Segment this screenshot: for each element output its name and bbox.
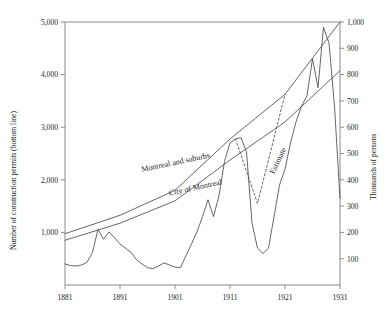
right-tick-label: 200 [347, 228, 359, 237]
right-tick-label: 800 [347, 70, 359, 79]
chart-figure: 1,0002,0003,0004,0005,000 10020030040050… [0, 0, 387, 321]
left-tick-label: 5,000 [41, 18, 58, 27]
right-tick-label: 900 [347, 44, 359, 53]
left-tick-label: 2,000 [41, 176, 58, 185]
right-tick-label: 1,000 [347, 18, 364, 27]
bottom-tick-label: 1931 [332, 293, 347, 302]
right-tick-label: 500 [347, 149, 359, 158]
bottom-tick-label: 1891 [112, 293, 127, 302]
right-axis-title: Thousands of persons [369, 134, 378, 200]
right-tick-label: 400 [347, 176, 359, 185]
left-axis-title: Number of construction permits (bottom l… [9, 111, 18, 250]
right-tick-label: 300 [347, 202, 359, 211]
bottom-tick-label: 1921 [277, 293, 292, 302]
left-tick-label: 4,000 [41, 70, 58, 79]
bottom-tick-label: 1911 [223, 293, 238, 302]
right-tick-label: 600 [347, 123, 359, 132]
right-tick-label: 700 [347, 97, 359, 106]
left-tick-label: 1,000 [41, 228, 58, 237]
line-chart: 1,0002,0003,0004,0005,000 10020030040050… [0, 0, 387, 321]
bottom-tick-label: 1901 [167, 293, 182, 302]
bottom-tick-label: 1881 [57, 293, 72, 302]
left-tick-label: 3,000 [41, 123, 58, 132]
right-tick-label: 100 [347, 255, 359, 264]
